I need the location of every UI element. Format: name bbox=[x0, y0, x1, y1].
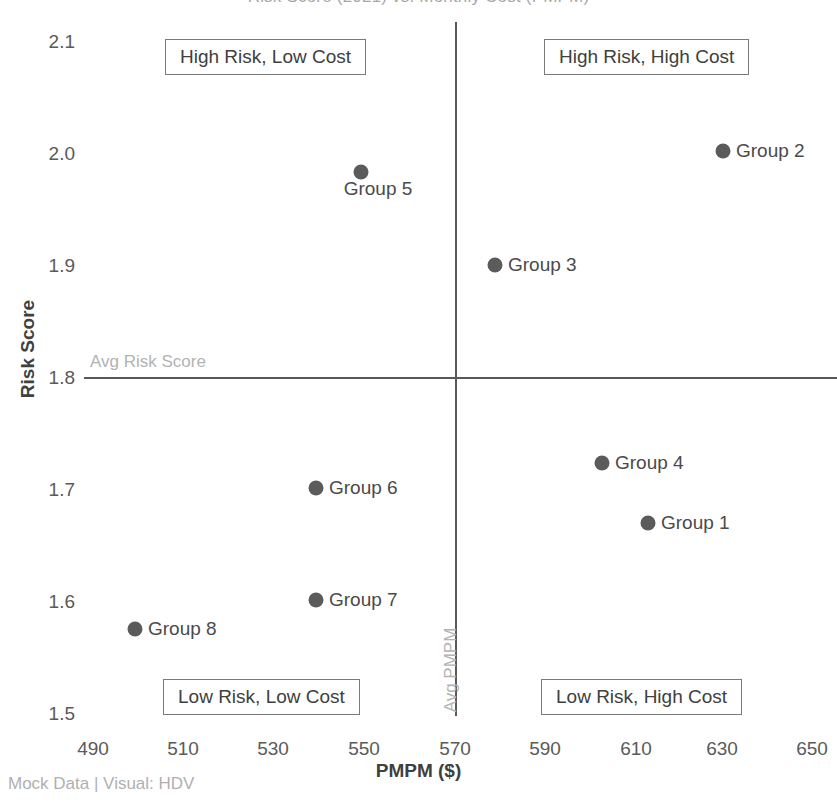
y-tick-label: 2.1 bbox=[49, 31, 75, 53]
x-tick-label: 590 bbox=[529, 738, 561, 760]
data-point-label: Group 5 bbox=[344, 178, 413, 200]
data-point-label: Group 2 bbox=[736, 140, 805, 162]
scatter-chart: Risk Score (2021) vs. Monthly Cost (PMPM… bbox=[0, 0, 837, 805]
data-point[interactable] bbox=[595, 456, 610, 471]
x-tick-label: 530 bbox=[257, 738, 289, 760]
data-point[interactable] bbox=[128, 622, 143, 637]
y-tick-label: 1.9 bbox=[49, 255, 75, 277]
data-point-label: Group 8 bbox=[148, 618, 217, 640]
x-tick-label: 650 bbox=[796, 738, 828, 760]
data-point[interactable] bbox=[309, 593, 324, 608]
y-tick-label: 2.0 bbox=[49, 143, 75, 165]
data-point[interactable] bbox=[641, 516, 656, 531]
x-tick-label: 510 bbox=[167, 738, 199, 760]
x-tick-label: 610 bbox=[620, 738, 652, 760]
chart-title: Risk Score (2021) vs. Monthly Cost (PMPM… bbox=[0, 0, 837, 7]
data-point-label: Group 7 bbox=[329, 589, 398, 611]
data-point[interactable] bbox=[309, 481, 324, 496]
data-point-label: Group 6 bbox=[329, 477, 398, 499]
x-tick-label: 570 bbox=[439, 738, 471, 760]
quadrant-label-high-risk-high-cost: High Risk, High Cost bbox=[544, 39, 749, 75]
y-tick-label: 1.8 bbox=[49, 367, 75, 389]
avg-pmpm-label: Avg PMPM bbox=[441, 615, 461, 725]
y-tick-label: 1.6 bbox=[49, 591, 75, 613]
data-point-label: Group 1 bbox=[661, 512, 730, 534]
data-point-label: Group 3 bbox=[508, 254, 577, 276]
x-tick-label: 490 bbox=[77, 738, 109, 760]
y-tick-label: 1.5 bbox=[49, 703, 75, 725]
x-tick-label: 550 bbox=[348, 738, 380, 760]
data-point-label: Group 4 bbox=[615, 452, 684, 474]
quadrant-label-high-risk-low-cost: High Risk, Low Cost bbox=[165, 39, 366, 75]
footer-note: Mock Data | Visual: HDV bbox=[8, 774, 194, 794]
avg-pmpm-reference-line bbox=[455, 22, 457, 716]
quadrant-label-low-risk-low-cost: Low Risk, Low Cost bbox=[163, 679, 360, 715]
x-tick-label: 630 bbox=[706, 738, 738, 760]
data-point[interactable] bbox=[716, 144, 731, 159]
avg-risk-score-reference-line bbox=[84, 377, 837, 379]
avg-risk-score-label: Avg Risk Score bbox=[90, 352, 206, 372]
y-tick-label: 1.7 bbox=[49, 479, 75, 501]
data-point[interactable] bbox=[488, 258, 503, 273]
y-axis-title: Risk Score bbox=[17, 269, 39, 429]
quadrant-label-low-risk-high-cost: Low Risk, High Cost bbox=[541, 679, 742, 715]
